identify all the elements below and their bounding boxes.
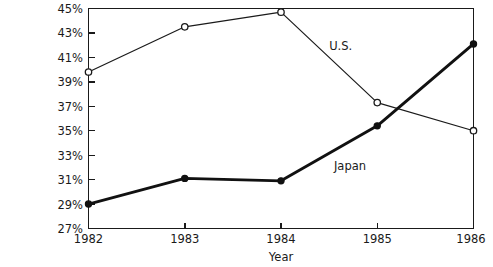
x-tick-label-1982: 1982 [74, 232, 103, 246]
y-tick-label-35: 35% [57, 124, 83, 138]
series-japan [85, 41, 476, 207]
series-label-japan: Japan [333, 159, 366, 173]
series-us-point-1986 [470, 128, 476, 134]
series-us [85, 9, 476, 134]
series-japan-point-1986 [470, 41, 476, 47]
series-us-markers [85, 9, 476, 134]
y-tick-label-31: 31% [57, 173, 83, 187]
x-tick-label-1983: 1983 [170, 232, 199, 246]
line-chart-figure: 45% 43% 41% 39% 37% 35% 33% 31% 29% 27% … [0, 0, 493, 267]
x-tick-label-1985: 1985 [363, 232, 392, 246]
y-tick-label-39: 39% [57, 75, 83, 89]
series-us-point-1982 [85, 69, 91, 75]
series-label-us: U.S. [329, 39, 352, 53]
series-us-point-1983 [182, 24, 188, 30]
series-japan-point-1984 [278, 178, 284, 184]
series-us-point-1985 [374, 99, 380, 105]
y-tick-labels: 45% 43% 41% 39% 37% 35% 33% 31% 29% 27% [57, 2, 83, 236]
y-tick-label-41: 41% [57, 51, 83, 65]
series-us-line [89, 12, 474, 131]
y-tick-label-29: 29% [57, 198, 83, 212]
series-japan-markers [85, 41, 476, 207]
series-us-point-1984 [278, 9, 284, 15]
x-tick-marks [89, 223, 474, 229]
chart-axes [89, 8, 474, 229]
y-tick-label-37: 37% [57, 100, 83, 114]
y-tick-label-43: 43% [57, 26, 83, 40]
series-japan-point-1985 [374, 123, 380, 129]
y-tick-marks [89, 9, 95, 229]
y-tick-label-45: 45% [57, 2, 83, 16]
x-tick-label-1986: 1986 [456, 232, 485, 246]
series-japan-point-1982 [85, 201, 91, 207]
y-tick-label-33: 33% [57, 149, 83, 163]
x-tick-labels: 1982 1983 1984 1985 1986 [74, 232, 486, 246]
series-japan-point-1983 [182, 175, 188, 181]
x-axis-title: Year [268, 250, 294, 264]
chart-canvas: 45% 43% 41% 39% 37% 35% 33% 31% 29% 27% … [0, 0, 493, 267]
x-tick-label-1984: 1984 [266, 232, 295, 246]
